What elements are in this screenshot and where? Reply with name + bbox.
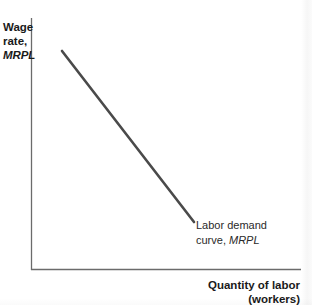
figure-labor-demand-curve: Wagerate,MRPL Labor demandcurve, MRPL Qu… — [0, 0, 312, 305]
x-axis-label-line2: (workers) — [248, 293, 300, 305]
labor-demand-curve — [62, 51, 194, 222]
labor-demand-curve-label: Labor demandcurve, MRPL — [196, 218, 267, 247]
x-axis-label: Quantity of labor(workers) — [160, 278, 300, 305]
x-axis-label-line1: Quantity of labor — [208, 279, 300, 291]
labor-demand-curve-label-line2-italic: MRPL — [229, 234, 260, 246]
y-axis-label: Wagerate,MRPL — [3, 20, 30, 62]
y-axis-label-line3: MRPL — [3, 49, 35, 61]
y-axis-label-line2: rate, — [3, 35, 27, 47]
labor-demand-curve-label-line2-prefix: curve, — [196, 234, 229, 246]
y-axis-label-line1: Wage — [3, 21, 33, 33]
labor-demand-curve-label-line1: Labor demand — [196, 219, 267, 231]
plot-area — [0, 0, 312, 305]
